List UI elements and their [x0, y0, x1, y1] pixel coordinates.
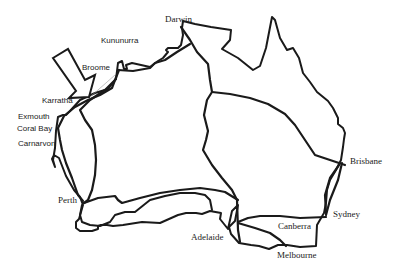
label-canberra: Canberra	[278, 221, 311, 231]
label-exmouth: Exmouth	[18, 112, 50, 121]
label-sydney: Sydney	[333, 209, 360, 219]
label-darwin: Darwin	[165, 14, 192, 24]
road-to-brisbane	[212, 92, 345, 165]
label-brisbane: Brisbane	[350, 156, 382, 166]
label-adelaide: Adelaide	[191, 232, 223, 242]
label-karratha: Karratha	[42, 96, 73, 105]
road-eyre-highway	[84, 188, 238, 203]
label-coral-bay: Coral Bay	[17, 124, 52, 133]
road-new-england	[325, 165, 339, 213]
road-stuart-highway	[181, 27, 240, 242]
label-perth: Perth	[58, 195, 77, 205]
label-carnarvon: Carnarvon	[18, 139, 55, 148]
label-broome: Broome	[82, 63, 110, 72]
arrow-pointer-icon	[53, 49, 95, 98]
label-melbourne: Melbourne	[277, 250, 317, 260]
label-kununurra: Kununurra	[101, 36, 138, 45]
